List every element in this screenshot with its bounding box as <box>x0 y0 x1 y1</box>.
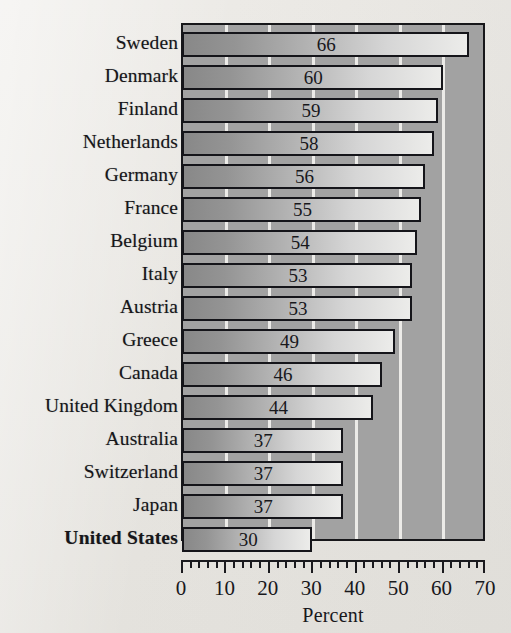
category-label: Austria <box>120 296 178 316</box>
category-label: Germany <box>105 164 178 184</box>
axis-tick-minor <box>363 562 365 568</box>
bar-value-label: 60 <box>304 67 323 86</box>
category-label: France <box>124 197 178 217</box>
axis-tick-minor <box>459 562 461 568</box>
bar-slot: 60 <box>183 61 487 94</box>
category-label: Japan <box>133 494 178 514</box>
bars-layer: 66605958565554535349464437373730 <box>183 25 483 539</box>
bar-value-label: 59 <box>302 100 321 119</box>
axis-tick-minor <box>389 562 391 568</box>
bar-slot: 30 <box>183 523 487 556</box>
bar-slot: 56 <box>183 160 487 193</box>
axis-tick-minor <box>285 562 287 568</box>
bar-value-label: 49 <box>280 331 299 350</box>
bar-slot: 37 <box>183 424 487 457</box>
axis-tick-minor <box>190 562 192 568</box>
axis-tick-minor <box>337 562 339 568</box>
axis-tick-label: 30 <box>301 578 322 599</box>
axis-tick-minor <box>294 562 296 568</box>
axis-tick-minor <box>198 562 200 568</box>
bar-slot: 58 <box>183 127 487 160</box>
bar-value-label: 46 <box>273 364 292 383</box>
axis-tick-major <box>355 562 357 573</box>
axis-tick-major <box>224 562 226 573</box>
category-label: Greece <box>122 329 178 349</box>
bar-slot: 49 <box>183 325 487 358</box>
axis-tick-minor <box>424 562 426 568</box>
bar-value-label: 37 <box>254 496 273 515</box>
axis-tick-minor <box>476 562 478 568</box>
category-label: Canada <box>119 362 178 382</box>
bar-value-label: 55 <box>293 199 312 218</box>
category-label: United Kingdom <box>45 395 178 415</box>
bar-value-label: 53 <box>289 265 308 284</box>
plot-area: 66605958565554535349464437373730 <box>181 23 485 541</box>
horizontal-bar-chart: SwedenDenmarkFinlandNetherlandsGermanyFr… <box>0 0 511 633</box>
bar-slot: 44 <box>183 391 487 424</box>
bar-slot: 46 <box>183 358 487 391</box>
axis-tick-label: 20 <box>257 578 278 599</box>
axis-tick-major <box>442 562 444 573</box>
axis-tick-minor <box>207 562 209 568</box>
axis-tick-minor <box>372 562 374 568</box>
axis-tick-minor <box>381 562 383 568</box>
bar-slot: 66 <box>183 28 487 61</box>
axis-tick-minor <box>329 562 331 568</box>
bar-slot: 37 <box>183 490 487 523</box>
bar-value-label: 37 <box>254 430 273 449</box>
axis-tick-minor <box>320 562 322 568</box>
category-label: Netherlands <box>83 131 178 151</box>
bar-value-label: 66 <box>317 34 336 53</box>
axis-tick-minor <box>242 562 244 568</box>
bar-value-label: 53 <box>289 298 308 317</box>
axis-tick-major <box>398 562 400 573</box>
bar-slot: 53 <box>183 259 487 292</box>
bar-value-label: 54 <box>291 232 310 251</box>
category-label: Denmark <box>105 65 178 85</box>
axis-tick-label: 10 <box>214 578 235 599</box>
category-label: Italy <box>142 263 178 283</box>
axis-tick-major <box>268 562 270 573</box>
axis-tick-minor <box>407 562 409 568</box>
bar-value-label: 58 <box>299 133 318 152</box>
category-label: Switzerland <box>84 461 178 481</box>
bar-slot: 55 <box>183 193 487 226</box>
bar-value-label: 30 <box>239 529 258 548</box>
axis-tick-labels: 010203040506070 <box>181 578 485 606</box>
axis-tick-label: 0 <box>176 578 187 599</box>
axis-tick-minor <box>233 562 235 568</box>
axis-ruler <box>181 560 485 576</box>
bar-slot: 54 <box>183 226 487 259</box>
category-label: United States <box>64 527 178 547</box>
axis-tick-minor <box>250 562 252 568</box>
x-axis: 010203040506070 <box>181 560 485 606</box>
axis-tick-major <box>483 562 485 573</box>
axis-tick-label: 40 <box>344 578 365 599</box>
axis-tick-minor <box>216 562 218 568</box>
axis-tick-minor <box>468 562 470 568</box>
category-label: Australia <box>106 428 178 448</box>
axis-tick-minor <box>303 562 305 568</box>
axis-tick-minor <box>277 562 279 568</box>
bar-value-label: 44 <box>269 397 288 416</box>
bar-value-label: 56 <box>295 166 314 185</box>
bar-value-label: 37 <box>254 463 273 482</box>
bar-slot: 53 <box>183 292 487 325</box>
category-label: Belgium <box>110 230 178 250</box>
axis-tick-minor <box>259 562 261 568</box>
axis-tick-label: 70 <box>475 578 496 599</box>
axis-tick-label: 50 <box>388 578 409 599</box>
axis-tick-minor <box>450 562 452 568</box>
axis-tick-label: 60 <box>431 578 452 599</box>
category-label: Finland <box>118 98 178 118</box>
axis-tick-major <box>311 562 313 573</box>
x-axis-title: Percent <box>181 604 485 627</box>
category-label: Sweden <box>116 32 178 52</box>
axis-tick-major <box>181 562 183 573</box>
axis-tick-minor <box>346 562 348 568</box>
axis-tick-minor <box>433 562 435 568</box>
bar-slot: 37 <box>183 457 487 490</box>
bar-slot: 59 <box>183 94 487 127</box>
axis-tick-minor <box>416 562 418 568</box>
